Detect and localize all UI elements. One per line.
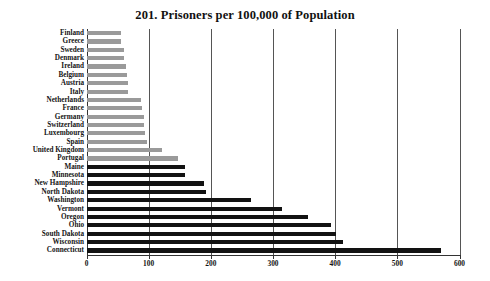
- bar-north-dakota: [87, 190, 206, 194]
- y-label-minnesota: Minnesota: [0, 171, 84, 179]
- x-tick-label-400: 400: [330, 259, 341, 268]
- bar-row: [87, 62, 460, 70]
- bar-row: [87, 29, 460, 37]
- bar-row: [87, 163, 460, 171]
- y-label-washington: Washington: [0, 196, 84, 204]
- y-axis-category-labels: FinlandGreeceSwedenDenmarkIrelandBelgium…: [0, 29, 84, 255]
- y-label-germany: Germany: [0, 113, 84, 121]
- y-label-france: France: [0, 104, 84, 112]
- bar-row: [87, 188, 460, 196]
- plot-area: [87, 29, 460, 255]
- bar-maine: [87, 165, 185, 169]
- bar-switzerland: [87, 123, 145, 127]
- bar-row: [87, 154, 460, 162]
- bar-france: [87, 106, 142, 110]
- y-label-ohio: Ohio: [0, 221, 84, 229]
- y-label-switzerland: Switzerland: [0, 121, 84, 129]
- bar-row: [87, 129, 460, 137]
- y-label-united-kingdom: United Kingdom: [0, 146, 84, 154]
- y-label-maine: Maine: [0, 163, 84, 171]
- bar-row: [87, 96, 460, 104]
- bar-ireland: [87, 64, 126, 68]
- bar-washington: [87, 198, 252, 202]
- bar-new-hampshire: [87, 181, 204, 185]
- chart-title: 201. Prisoners per 100,000 of Population: [0, 8, 490, 23]
- y-label-italy: Italy: [0, 88, 84, 96]
- bar-sweden: [87, 48, 124, 52]
- bar-row: [87, 138, 460, 146]
- y-label-new-hampshire: New Hampshire: [0, 179, 84, 187]
- bar-row: [87, 221, 460, 229]
- bar-ohio: [87, 223, 332, 227]
- bar-greece: [87, 39, 122, 43]
- y-label-belgium: Belgium: [0, 71, 84, 79]
- bar-row: [87, 121, 460, 129]
- bar-row: [87, 46, 460, 54]
- bar-row: [87, 171, 460, 179]
- bar-row: [87, 213, 460, 221]
- bar-row: [87, 54, 460, 62]
- bar-finland: [87, 31, 121, 35]
- bar-row: [87, 146, 460, 154]
- bar-united-kingdom: [87, 148, 163, 152]
- bar-series: [87, 29, 460, 255]
- y-label-vermont: Vermont: [0, 205, 84, 213]
- bar-wisconsin: [87, 240, 344, 244]
- y-label-south-dakota: South Dakota: [0, 230, 84, 238]
- y-label-austria: Austria: [0, 79, 84, 87]
- bar-netherlands: [87, 98, 141, 102]
- bar-italy: [87, 90, 129, 94]
- bar-oregon: [87, 215, 309, 219]
- bar-row: [87, 246, 460, 254]
- x-tick-label-100: 100: [143, 259, 154, 268]
- x-tick-label-200: 200: [205, 259, 216, 268]
- y-label-oregon: Oregon: [0, 213, 84, 221]
- y-label-spain: Spain: [0, 138, 84, 146]
- x-tick-label-0: 0: [85, 259, 89, 268]
- y-label-netherlands: Netherlands: [0, 96, 84, 104]
- bar-row: [87, 79, 460, 87]
- bar-germany: [87, 115, 144, 119]
- chart-container: 201. Prisoners per 100,000 of Population…: [0, 0, 490, 281]
- bar-row: [87, 196, 460, 204]
- bar-south-dakota: [87, 232, 336, 236]
- bar-row: [87, 238, 460, 246]
- bar-row: [87, 88, 460, 96]
- y-label-greece: Greece: [0, 37, 84, 45]
- x-tick-label-300: 300: [267, 259, 278, 268]
- bar-belgium: [87, 73, 127, 77]
- bar-portugal: [87, 156, 178, 160]
- bar-minnesota: [87, 173, 186, 177]
- bar-row: [87, 179, 460, 187]
- bar-row: [87, 230, 460, 238]
- bar-spain: [87, 140, 148, 144]
- bar-austria: [87, 81, 128, 85]
- x-tick-label-600: 600: [454, 259, 465, 268]
- bar-row: [87, 113, 460, 121]
- y-label-ireland: Ireland: [0, 62, 84, 70]
- y-label-sweden: Sweden: [0, 46, 84, 54]
- bar-connecticut: [87, 248, 441, 252]
- y-label-finland: Finland: [0, 29, 84, 37]
- bar-vermont: [87, 207, 282, 211]
- bar-row: [87, 71, 460, 79]
- bar-row: [87, 37, 460, 45]
- bar-row: [87, 205, 460, 213]
- y-label-connecticut: Connecticut: [0, 246, 84, 254]
- y-label-denmark: Denmark: [0, 54, 84, 62]
- bar-luxembourg: [87, 131, 145, 135]
- y-label-wisconsin: Wisconsin: [0, 238, 84, 246]
- gridline-600: [460, 29, 461, 255]
- y-label-portugal: Portugal: [0, 154, 84, 162]
- y-label-luxembourg: Luxembourg: [0, 129, 84, 137]
- x-tick-label-500: 500: [392, 259, 403, 268]
- bar-row: [87, 104, 460, 112]
- bar-denmark: [87, 56, 125, 60]
- y-label-north-dakota: North Dakota: [0, 188, 84, 196]
